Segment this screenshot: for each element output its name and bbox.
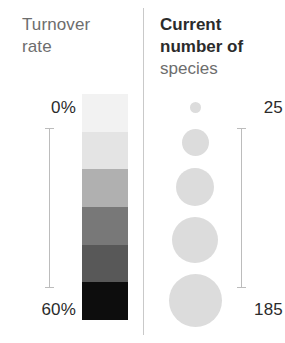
- species-count-title-line-2: number of: [160, 36, 280, 58]
- axis-line: [49, 128, 50, 288]
- species-count-title-line-3: species: [160, 58, 280, 80]
- turnover-rate-max-label: 60%: [0, 300, 76, 320]
- species-count-title: Current number of species: [160, 14, 280, 80]
- turnover-rate-axis: [45, 128, 54, 288]
- ramp-band-5: [82, 282, 128, 320]
- species-bubble-105: [176, 168, 214, 206]
- species-bubble-185: [169, 274, 222, 327]
- ramp-band-1: [82, 132, 128, 170]
- ramp-band-4: [82, 245, 128, 283]
- species-bubble-25: [190, 102, 201, 113]
- ramp-band-3: [82, 207, 128, 245]
- turnover-rate-title: Turnover rate: [22, 14, 134, 58]
- turnover-rate-color-ramp: [82, 94, 128, 320]
- turnover-rate-title-line-1: Turnover: [22, 14, 134, 36]
- species-bubble-65: [182, 129, 209, 156]
- species-count-title-line-1: Current: [160, 14, 280, 36]
- axis-cap-bottom: [45, 287, 54, 288]
- turnover-rate-title-line-2: rate: [22, 36, 134, 58]
- turnover-rate-min-label: 0%: [0, 98, 76, 118]
- species-bubble-145: [172, 217, 218, 263]
- ramp-band-2: [82, 169, 128, 207]
- species-count-panel: Current number of species 25 185: [143, 0, 285, 343]
- ramp-band-0: [82, 94, 128, 132]
- species-count-bubbles: [143, 90, 253, 330]
- map-legend: Turnover rate 0% 60% Current number of s…: [0, 0, 285, 343]
- turnover-rate-panel: Turnover rate 0% 60%: [0, 0, 143, 343]
